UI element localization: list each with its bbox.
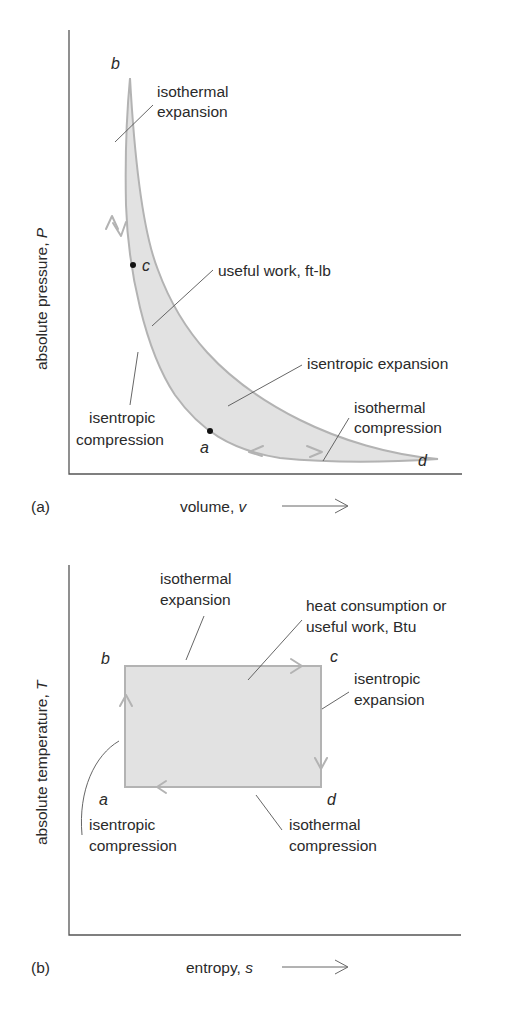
pv-diagram: b c a d isothermal expansion useful work… <box>31 30 462 515</box>
label-isothermal-compression-1: isothermal <box>354 399 426 416</box>
label-isentropic-expansion: isentropic expansion <box>307 355 448 372</box>
label-isentropic-compression-2: compression <box>89 837 177 854</box>
label-isentropic-compression-1: isentropic <box>89 816 156 833</box>
leader-isothermal-compression <box>256 795 282 830</box>
point-b-label: b <box>111 55 120 72</box>
leader-isothermal-expansion <box>186 616 204 660</box>
point-a-marker <box>207 428 213 434</box>
ts-diagram: b c a d isothermal expansion heat consum… <box>31 565 461 976</box>
point-d-label: d <box>327 791 337 808</box>
label-heat-consumption-1: heat consumption or <box>306 597 446 614</box>
label-isentropic-expansion-2: expansion <box>354 691 425 708</box>
label-useful-work: useful work, ft-lb <box>218 262 331 279</box>
point-c-label: c <box>330 648 338 665</box>
label-isothermal-compression-2: compression <box>354 419 442 436</box>
leader-isentropic-expansion <box>322 692 349 709</box>
label-isothermal-compression-2: compression <box>289 837 377 854</box>
y-axis-label-temperature: absolute temperature, T <box>33 679 50 845</box>
x-axis-label-entropy: entropy, s <box>186 959 253 976</box>
label-isothermal-expansion-1: isothermal <box>160 570 232 587</box>
point-a-label: a <box>200 439 209 456</box>
label-isothermal-expansion-2: expansion <box>160 591 231 608</box>
label-isothermal-expansion-2: expansion <box>157 103 228 120</box>
x-axis-arrow-icon <box>282 960 348 974</box>
panel-label-b: (b) <box>31 959 50 976</box>
label-isentropic-compression-1: isentropic <box>89 409 156 426</box>
arrow-up-icon <box>106 216 118 229</box>
leader-isentropic-compression <box>130 352 138 405</box>
point-d-label: d <box>418 452 428 469</box>
panel-label-a: (a) <box>31 498 50 515</box>
point-b-label: b <box>101 650 110 667</box>
label-isothermal-compression-1: isothermal <box>289 816 361 833</box>
y-axis-label-pressure: absolute pressure, P <box>33 227 50 370</box>
point-a-label: a <box>99 791 108 808</box>
label-heat-consumption-2: useful work, Btu <box>306 618 416 635</box>
label-isentropic-compression-2: compression <box>76 431 164 448</box>
point-c-label: c <box>142 257 150 274</box>
label-isothermal-expansion-1: isothermal <box>157 83 229 100</box>
point-c-marker <box>130 262 136 268</box>
carnot-cycle-figure: b c a d isothermal expansion useful work… <box>0 0 512 1017</box>
x-axis-label-volume: volume, v <box>180 498 248 515</box>
x-axis-arrow-icon <box>282 499 348 513</box>
label-isentropic-expansion-1: isentropic <box>354 670 421 687</box>
ts-cycle-area <box>125 666 321 787</box>
